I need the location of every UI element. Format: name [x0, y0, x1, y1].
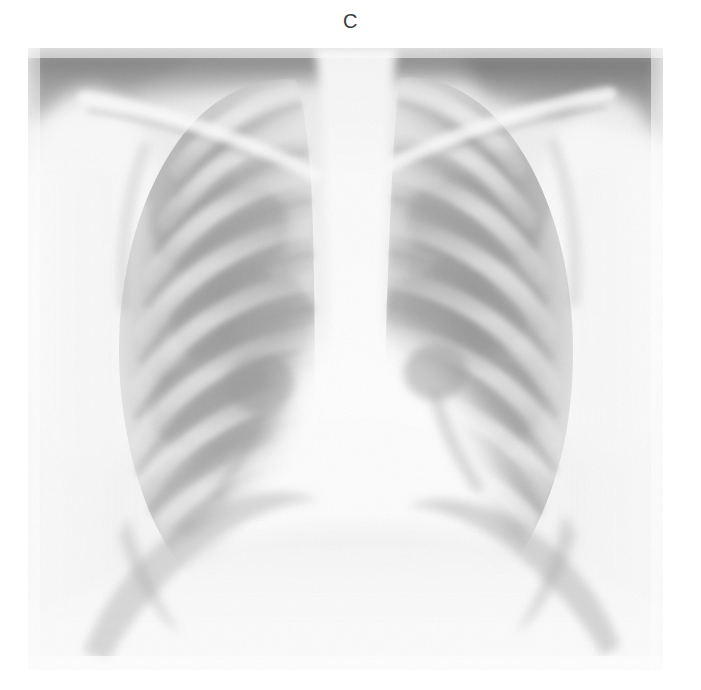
- chest-radiograph-image: [28, 48, 663, 670]
- figure-panel: C: [0, 0, 701, 690]
- panel-label: C: [0, 10, 701, 33]
- radiograph-canvas: [28, 48, 663, 670]
- film-grain-overlay: [28, 48, 663, 670]
